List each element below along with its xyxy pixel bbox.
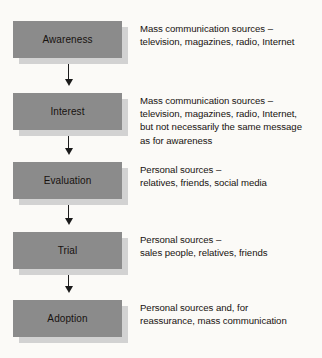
stage-box-fill: Trial — [13, 232, 122, 269]
stage-label-adoption: Adoption — [47, 313, 87, 324]
description-line: relatives, friends, social media — [140, 176, 322, 189]
description-line: but not necessarily the same message — [140, 120, 322, 133]
down-arrow-icon — [65, 286, 73, 293]
adoption-process-flowchart: AwarenessMass communication sources –tel… — [0, 0, 322, 358]
down-arrow-icon — [65, 79, 73, 86]
stage-label-evaluation: Evaluation — [44, 175, 92, 186]
stage-box-fill: Interest — [13, 93, 122, 130]
stage-label-trial: Trial — [58, 245, 78, 256]
description-line: Personal sources and, for — [140, 301, 322, 314]
stage-box-awareness: Awareness — [13, 21, 128, 64]
arrow-shaft — [68, 64, 69, 80]
description-line: Personal sources – — [140, 163, 322, 176]
description-line: Personal sources – — [140, 233, 322, 246]
connector-arrow-3 — [64, 205, 73, 225]
description-line: reassurance, mass communication — [140, 314, 322, 327]
connector-arrow-1 — [64, 64, 73, 86]
down-arrow-icon — [65, 148, 73, 155]
stage-box-adoption: Adoption — [13, 300, 128, 343]
description-line: television, magazines, radio, Internet — [140, 35, 322, 48]
stage-box-fill: Awareness — [13, 21, 122, 58]
description-line: as for awareness — [140, 134, 322, 147]
stage-description-trial: Personal sources –sales people, relative… — [140, 233, 322, 259]
stage-label-awareness: Awareness — [42, 34, 92, 45]
description-line: Mass communication sources – — [140, 94, 322, 107]
stage-box-fill: Evaluation — [13, 162, 122, 199]
stage-label-interest: Interest — [50, 106, 84, 117]
description-line: television, magazines, radio, Internet, — [140, 107, 322, 120]
stage-description-evaluation: Personal sources –relatives, friends, so… — [140, 163, 322, 189]
stage-box-trial: Trial — [13, 232, 128, 275]
stage-description-awareness: Mass communication sources –television, … — [140, 22, 322, 48]
stage-description-interest: Mass communication sources –television, … — [140, 94, 322, 147]
connector-arrow-4 — [64, 275, 73, 293]
stage-box-fill: Adoption — [13, 300, 122, 337]
down-arrow-icon — [65, 218, 73, 225]
description-line: Mass communication sources – — [140, 22, 322, 35]
description-line: sales people, relatives, friends — [140, 246, 322, 259]
stage-description-adoption: Personal sources and, forreassurance, ma… — [140, 301, 322, 327]
stage-box-interest: Interest — [13, 93, 128, 136]
connector-arrow-2 — [64, 136, 73, 155]
arrow-shaft — [68, 205, 69, 219]
stage-box-evaluation: Evaluation — [13, 162, 128, 205]
